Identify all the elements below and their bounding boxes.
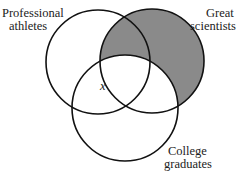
venn-diagram: Professional athletes Great scientists C… [0, 0, 243, 180]
label-scientists: scientists [190, 20, 236, 33]
label-graduates: graduates [164, 158, 212, 171]
label-athletes: athletes [9, 20, 47, 33]
marker-x: x [100, 80, 106, 93]
